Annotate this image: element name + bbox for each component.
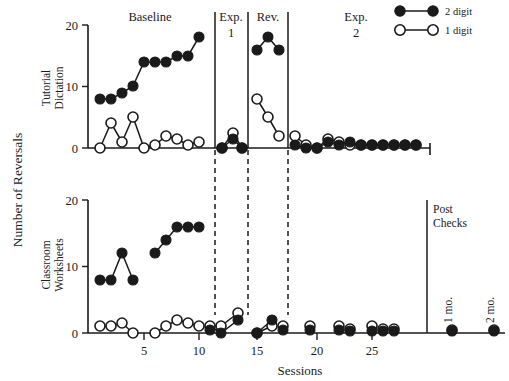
legend-label-2digit: 2 digit xyxy=(445,6,472,17)
top-points-2digit xyxy=(95,32,421,153)
bottom-series-2digit-baseA xyxy=(100,253,133,280)
chart-svg: Number of Reversals 2 digit 1 digit Tuto… xyxy=(0,0,509,381)
phase-label-exp1: Exp. xyxy=(219,10,242,24)
phase-label-exp2-num: 2 xyxy=(353,26,359,40)
filled-circle-icon xyxy=(428,6,438,16)
top-ylabel-20: 20 xyxy=(66,19,79,33)
phase-label-baseline: Baseline xyxy=(128,10,171,24)
top-series-2digit-baseline xyxy=(100,37,199,99)
filled-circle-icon xyxy=(395,6,405,16)
phase-label-rev: Rev. xyxy=(257,10,279,24)
panel-label-classroom-line1: Classroom xyxy=(40,240,52,289)
panel-label-tutorial-line2: Dictation xyxy=(53,66,65,109)
phase-label-exp2: Exp. xyxy=(344,10,367,24)
post-checks-title-line2: Checks xyxy=(433,217,467,229)
bottom-ylabel-10: 10 xyxy=(66,260,79,274)
top-ylabel-0: 0 xyxy=(72,142,78,156)
bottom-ylabel-0: 0 xyxy=(72,327,78,341)
legend-item-2digit: 2 digit xyxy=(395,6,472,17)
open-circle-icon xyxy=(428,25,438,35)
panel-label-tutorial-line1: Tutorial xyxy=(40,70,52,107)
bottom-xlabel-10: 10 xyxy=(193,344,206,358)
bottom-xlabel-15: 15 xyxy=(251,344,264,358)
open-circle-icon xyxy=(395,25,405,35)
legend-item-1digit: 1 digit xyxy=(395,25,472,36)
post-check-label-2mo: 2 mo. xyxy=(484,297,496,323)
panel-classroom-worksheets: Classroom Worksheets 20 10 0 5 10 15 20 … xyxy=(40,194,505,378)
bottom-xlabel-25: 25 xyxy=(366,344,379,358)
legend: 2 digit 1 digit xyxy=(395,6,472,36)
bottom-points-2digit xyxy=(95,222,499,338)
bottom-ylabel-20: 20 xyxy=(66,194,79,208)
panel-label-classroom-line2: Worksheets xyxy=(53,238,65,292)
post-check-label-1mo: 1 mo. xyxy=(442,297,454,323)
bottom-xlabel-20: 20 xyxy=(311,344,324,358)
top-ylabel-10: 10 xyxy=(66,80,79,94)
post-checks-title-line1: Post xyxy=(433,203,454,215)
x-axis-label: Sessions xyxy=(278,363,323,378)
panel-tutorial-dictation: Tutorial Dictation 20 10 0 Baseline Exp.… xyxy=(40,10,430,156)
phase-label-exp1-num: 1 xyxy=(228,26,234,40)
bottom-xlabel-5: 5 xyxy=(141,344,147,358)
figure-root: Number of Reversals 2 digit 1 digit Tuto… xyxy=(0,0,509,381)
legend-label-1digit: 1 digit xyxy=(445,25,472,36)
main-y-axis-label: Number of Reversals xyxy=(10,133,25,248)
